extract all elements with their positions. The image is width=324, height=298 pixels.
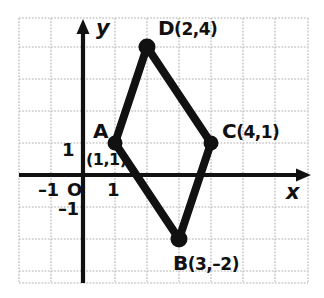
point-label-d: D(2,4)	[158, 18, 217, 38]
point-label-c-letter: C	[222, 119, 236, 143]
graph-canvas	[0, 0, 324, 298]
vertex-dot-c	[204, 136, 219, 151]
point-coords-d: (2,4)	[174, 19, 217, 39]
point-label-d-letter: D	[158, 16, 174, 40]
x-axis	[19, 169, 311, 182]
point-label-a: A	[93, 121, 108, 141]
coordinate-plane-figure: y x 1 –1 O 1 –1 A (1,1) D(2,4) C(4,1) B(…	[0, 0, 324, 298]
vertex-dot-a	[108, 136, 123, 151]
x-tick-label-neg1: –1	[38, 181, 59, 199]
y-tick-label-neg1: –1	[58, 200, 79, 218]
point-label-b-letter: B	[173, 251, 188, 275]
vertex-dot-b	[171, 231, 188, 248]
vertex-dot-d	[139, 39, 156, 56]
point-label-b: B(3,–2)	[173, 253, 239, 273]
x-axis-label: x	[286, 182, 299, 203]
origin-label: O	[67, 181, 82, 199]
point-coords-c: (4,1)	[236, 122, 279, 142]
point-coords-b: (3,–2)	[188, 254, 239, 274]
y-tick-label-1: 1	[62, 141, 74, 159]
point-coords-a: (1,1)	[86, 152, 126, 168]
x-tick-label-1: 1	[107, 181, 119, 199]
y-axis-label: y	[96, 18, 109, 39]
y-axis-arrow-icon	[77, 19, 90, 34]
point-label-c: C(4,1)	[222, 121, 279, 141]
